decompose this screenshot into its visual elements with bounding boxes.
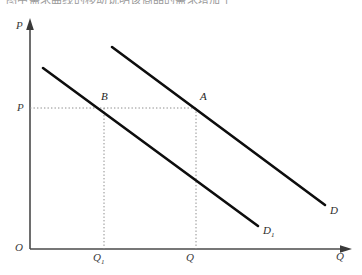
curve-label-d-text: D bbox=[330, 204, 338, 216]
y-axis-arrowhead bbox=[26, 18, 34, 30]
curve-label-d1-text: D bbox=[263, 224, 271, 236]
diagram-screenshot: 图中需求曲线的移动说明该商品的需求增加了 P Q O P Q1 Q bbox=[0, 0, 362, 275]
point-label-b: B bbox=[101, 91, 108, 102]
x-axis-label: Q bbox=[336, 251, 344, 262]
curve-label-d1-sub: 1 bbox=[271, 231, 275, 239]
curve-label-d1: D1 bbox=[263, 225, 274, 239]
tick-label-q-text: Q bbox=[186, 251, 194, 263]
demand-shift-diagram bbox=[0, 0, 362, 275]
curve-label-d: D bbox=[330, 205, 338, 219]
demand-curve-original bbox=[43, 68, 258, 226]
origin-label: O bbox=[15, 242, 23, 253]
tick-label-q1: Q1 bbox=[93, 252, 104, 266]
point-label-a: A bbox=[200, 91, 207, 102]
tick-label-q1-sub: 1 bbox=[101, 258, 105, 266]
y-axis bbox=[26, 18, 34, 249]
tick-label-q1-text: Q bbox=[93, 251, 101, 263]
price-level-label: P bbox=[17, 102, 24, 113]
demand-curve-shifted bbox=[112, 47, 325, 205]
tick-label-q: Q bbox=[186, 252, 194, 266]
y-axis-label: P bbox=[16, 20, 23, 31]
